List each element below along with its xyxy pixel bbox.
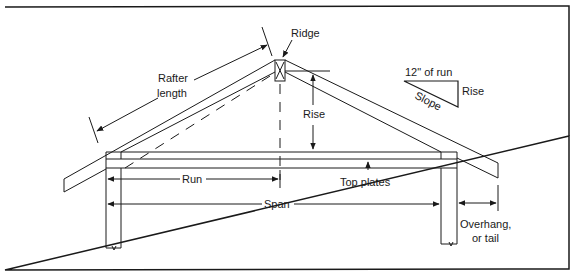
roof-framing-diagram: Rafter length Ridge Rise Run Span Overha… [0,0,574,274]
run-label: Run [182,173,202,185]
ridge-label: Ridge [291,27,320,39]
overhang-label-2: or tail [472,232,499,244]
overhang-label-1: Overhang, [460,218,511,230]
top-plates-label: Top plates [340,176,391,188]
slope-rise-label: Rise [462,85,484,97]
top-plates [106,152,457,168]
diagram-border [5,6,569,270]
span-label: Span [264,198,290,210]
ridge-pointer [283,40,292,57]
overhang-dimension [459,185,498,211]
rafter-length-dimension [89,27,272,143]
slope-run-label: 12" of run [405,66,452,78]
rafter-length-label-2: length [157,87,187,99]
slope-legend: 12" of run Rise Slope [404,66,484,113]
rafter-length-label-1: Rafter [158,72,188,84]
ridge-board [275,60,285,81]
rise-label: Rise [303,108,325,120]
